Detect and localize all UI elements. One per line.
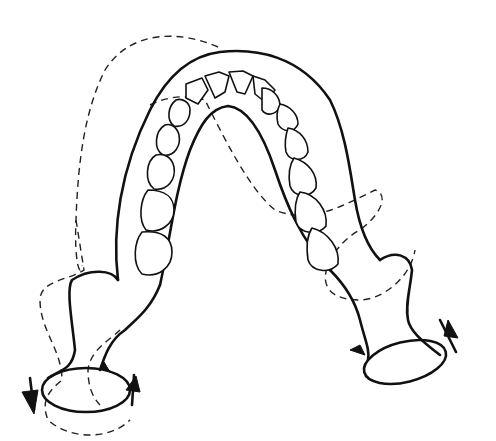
mandible-drawing	[0, 0, 496, 441]
left-condyle	[42, 368, 130, 412]
dental-arch-teeth	[135, 71, 338, 275]
right-condyle	[359, 332, 450, 391]
dashed-displaced-outline	[40, 36, 415, 435]
mandible-illustration	[0, 0, 496, 441]
arrow-down-left-icon	[22, 390, 38, 414]
mandible-outline	[48, 51, 440, 378]
arrow-up-right-icon	[444, 320, 458, 338]
